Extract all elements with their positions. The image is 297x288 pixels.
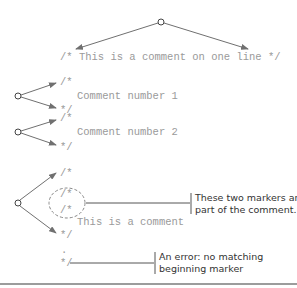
group1-comment-body: Comment number 1 bbox=[77, 90, 178, 102]
diagram-arrows bbox=[0, 0, 297, 288]
group1-arrows bbox=[15, 83, 56, 108]
origin-node-icon bbox=[15, 129, 21, 135]
group2-close-marker: */ bbox=[60, 141, 73, 153]
nested-markers-annotation-line1: These two markers are bbox=[195, 192, 297, 204]
origin-node-icon bbox=[15, 93, 21, 99]
error-annotation-line1: An error: no matching bbox=[159, 251, 263, 263]
group2-arrows bbox=[15, 120, 56, 145]
group1-open-marker: /* bbox=[60, 76, 73, 88]
single-line-comment: /* This is a comment on one line */ bbox=[60, 51, 281, 63]
origin-node-icon bbox=[15, 200, 21, 206]
nested-markers-annotation-line2: part of the comment. bbox=[195, 204, 296, 216]
group3-close-marker: */ bbox=[60, 229, 73, 241]
group3-comment-body: This is a comment bbox=[77, 216, 184, 228]
bottom-divider bbox=[0, 283, 297, 285]
error-annotation-line2: beginning marker bbox=[159, 263, 243, 275]
group2-open-marker: /* bbox=[60, 112, 73, 124]
group3-open-marker: /* bbox=[60, 167, 73, 179]
group3-stray-close-marker: */ bbox=[60, 257, 73, 269]
group3-ellipsis-dot: . bbox=[61, 244, 67, 256]
group2-comment-body: Comment number 2 bbox=[77, 126, 178, 138]
single-line-arrows bbox=[76, 19, 248, 49]
group3-inner-marker-1: /* bbox=[60, 188, 73, 200]
group3-inner-marker-2: /* bbox=[60, 204, 73, 216]
origin-node-icon bbox=[158, 19, 164, 25]
